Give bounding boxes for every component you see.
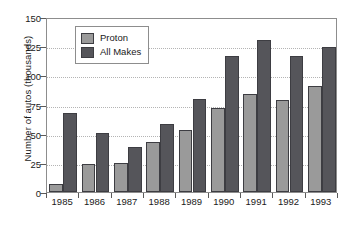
y-tick-label: 75 [0,100,41,111]
bar-proton-1988 [146,142,160,192]
bar-proton-1990 [211,108,225,192]
x-tick-mark [175,193,176,198]
y-tick-label: 125 [0,42,41,53]
x-tick-mark [143,193,144,198]
legend-label-all-makes: All Makes [100,46,141,58]
y-tick-label: 50 [0,129,41,140]
bar-all-makes-1989 [193,99,207,192]
y-tick-label: 0 [0,188,41,199]
x-tick-mark [272,193,273,198]
legend-swatch-all-makes-icon [81,47,94,58]
bar-all-makes-1985 [63,113,77,192]
legend-item: All Makes [81,45,141,59]
bar-proton-1991 [243,94,257,192]
bar-proton-1992 [276,100,290,192]
bar-all-makes-1988 [160,124,174,192]
legend-item: Proton [81,31,141,45]
bar-all-makes-1992 [290,56,304,193]
x-tick-mark [337,193,338,198]
x-tick-mark [208,193,209,198]
bar-proton-1993 [308,86,322,192]
x-tick-mark [240,193,241,198]
x-tick-mark [305,193,306,198]
bar-all-makes-1987 [128,147,142,193]
bar-all-makes-1990 [225,56,239,193]
bar-chart-figure: Number of autos (thousands) 025507510012… [0,0,352,234]
x-tick-mark [78,193,79,198]
legend-swatch-proton-icon [81,33,94,44]
x-tick-mark [46,193,47,198]
bar-proton-1986 [82,164,96,192]
bar-all-makes-1986 [96,133,110,193]
bar-proton-1987 [114,163,128,192]
bar-proton-1989 [179,130,193,192]
x-tick-mark [111,193,112,198]
legend-label-proton: Proton [100,32,128,44]
bar-all-makes-1991 [257,40,271,192]
y-tick-label: 100 [0,71,41,82]
bar-proton-1985 [49,184,63,192]
y-tick-label: 25 [0,158,41,169]
legend: Proton All Makes [75,26,149,64]
bar-all-makes-1993 [322,47,336,192]
y-tick-label: 150 [0,13,41,24]
